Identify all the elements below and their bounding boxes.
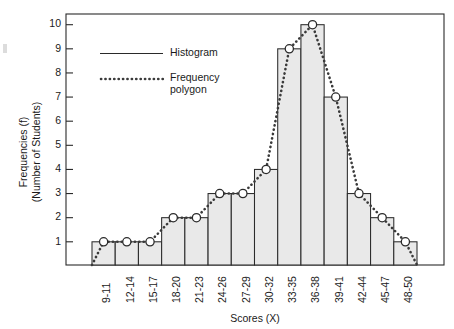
x-tick-label-18-20: 18-20: [170, 276, 182, 303]
frequency-distribution-figure: 12345678910 9-1112-1415-1718-2021-2324-2…: [0, 0, 454, 329]
x-tick-label-30-32: 30-32: [263, 276, 275, 303]
histogram-bar-18-20: [162, 218, 185, 265]
y-axis-tick-labels: 12345678910: [49, 17, 61, 246]
x-tick-label-48-50: 48-50: [402, 276, 414, 303]
legend-frequency-polygon-label-line2: polygon: [170, 83, 207, 95]
histogram-frequency-polygon-chart: 12345678910 9-1112-1415-1718-2021-2324-2…: [0, 0, 454, 329]
x-tick-label-36-38: 36-38: [309, 276, 321, 303]
y-axis-tick-marks: [66, 25, 73, 242]
polygon-point-15-17: [146, 238, 154, 246]
polygon-point-18-20: [169, 214, 177, 222]
histogram-bar-30-32: [255, 169, 278, 265]
x-axis-tick-labels: 9-1112-1415-1718-2021-2324-2627-2930-323…: [100, 276, 414, 303]
y-tick-label-1: 1: [55, 235, 61, 247]
x-tick-label-9-11: 9-11: [100, 283, 112, 303]
y-tick-label-4: 4: [55, 162, 61, 174]
x-tick-label-24-26: 24-26: [216, 276, 228, 303]
x-tick-label-39-41: 39-41: [333, 276, 345, 303]
polygon-point-48-50: [401, 238, 409, 246]
histogram-bar-42-44: [347, 194, 370, 265]
y-axis-title-line2: (Number of Students): [30, 102, 42, 202]
x-tick-label-45-47: 45-47: [379, 276, 391, 303]
y-tick-label-2: 2: [55, 210, 61, 222]
polygon-point-30-32: [262, 165, 270, 173]
polygon-point-45-47: [378, 214, 386, 222]
chart-legend: Histogram Frequency polygon: [100, 46, 220, 95]
histogram-bar-27-29: [231, 194, 254, 265]
y-tick-label-5: 5: [55, 138, 61, 150]
polygon-point-27-29: [239, 189, 247, 197]
y-tick-label-9: 9: [55, 42, 61, 54]
y-tick-label-6: 6: [55, 114, 61, 126]
polygon-point-33-35: [285, 45, 293, 53]
polygon-point-36-38: [308, 21, 316, 29]
x-tick-label-21-23: 21-23: [193, 276, 205, 303]
x-tick-label-15-17: 15-17: [147, 276, 159, 303]
polygon-point-24-26: [216, 189, 224, 197]
y-tick-label-7: 7: [55, 90, 61, 102]
x-axis-title: Scores (X): [230, 312, 280, 324]
legend-histogram-label: Histogram: [170, 46, 218, 58]
histogram-bar-24-26: [208, 194, 231, 265]
x-tick-label-27-29: 27-29: [240, 276, 252, 303]
polygon-point-42-44: [355, 189, 363, 197]
legend-frequency-polygon-label-line1: Frequency: [170, 71, 220, 83]
histogram-bars: [92, 25, 417, 265]
polygon-point-39-41: [332, 93, 340, 101]
x-tick-label-42-44: 42-44: [356, 276, 368, 303]
y-tick-label-3: 3: [55, 186, 61, 198]
y-axis-title-line1: Frequencies (f): [17, 117, 29, 188]
x-tick-label-12-14: 12-14: [124, 276, 136, 303]
polygon-point-9-11: [100, 238, 108, 246]
polygon-point-21-23: [192, 214, 200, 222]
histogram-bar-39-41: [324, 97, 347, 265]
histogram-bar-21-23: [185, 218, 208, 265]
histogram-bar-36-38: [301, 25, 324, 265]
polygon-point-12-14: [123, 238, 131, 246]
y-tick-label-8: 8: [55, 66, 61, 78]
x-tick-label-33-35: 33-35: [286, 276, 298, 303]
histogram-bar-33-35: [278, 49, 301, 265]
y-tick-label-10: 10: [49, 17, 61, 29]
